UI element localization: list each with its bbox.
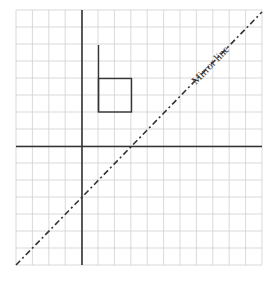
reflection-diagram: Mirror line: [0, 0, 274, 284]
flag-shape: [99, 45, 132, 112]
mirror-line-label: Mirror line: [189, 43, 231, 86]
